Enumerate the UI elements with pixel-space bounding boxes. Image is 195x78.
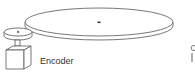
small-pulley bbox=[4, 28, 32, 40]
turntable-encoder-diagram: Encoder bbox=[0, 0, 195, 78]
disc-center-hole bbox=[98, 22, 101, 24]
shaft bbox=[15, 40, 20, 46]
partial-object-right bbox=[191, 46, 195, 63]
encoder-box bbox=[6, 46, 31, 69]
encoder-label: Encoder bbox=[40, 56, 74, 66]
large-disc bbox=[25, 8, 173, 40]
